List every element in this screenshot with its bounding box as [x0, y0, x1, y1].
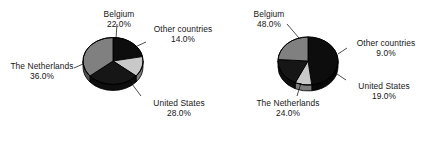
left-label-united-states: United States 28.0% [141, 98, 217, 119]
left-label-other-countries-value: 14.0% [146, 34, 220, 44]
chart-panel-left: Belgium 22.0%Other countries 14.0%United… [0, 0, 218, 142]
right-label-united-states: United States 19.0% [348, 81, 420, 102]
left-label-netherlands: The Netherlands 36.0% [2, 61, 82, 82]
right-label-netherlands-value: 24.0% [245, 108, 331, 118]
right-label-belgium-value: 48.0% [237, 19, 301, 29]
right-label-belgium: Belgium 48.0% [237, 9, 301, 30]
left-label-other-countries: Other countries 14.0% [146, 24, 220, 45]
left-leader-other-countries [135, 42, 146, 47]
right-label-other-countries-category: Other countries [346, 38, 426, 48]
left-label-united-states-value: 28.0% [141, 108, 217, 118]
right-label-netherlands: The Netherlands 24.0% [245, 98, 331, 119]
right-label-other-countries: Other countries 9.0% [346, 38, 426, 59]
right-label-united-states-value: 19.0% [348, 91, 420, 101]
left-label-other-countries-category: Other countries [146, 24, 220, 34]
left-label-netherlands-category: The Netherlands [2, 61, 82, 71]
right-label-other-countries-value: 9.0% [346, 48, 426, 58]
pie-chart-figure: Belgium 22.0%Other countries 14.0%United… [0, 0, 435, 142]
left-label-belgium-value: 22.0% [88, 19, 150, 29]
chart-panel-right: Belgium 48.0%Other countries 9.0%United … [217, 0, 435, 142]
left-label-belgium: Belgium 22.0% [88, 9, 150, 30]
left-label-netherlands-value: 36.0% [2, 71, 82, 81]
right-label-belgium-category: Belgium [237, 9, 301, 19]
left-label-united-states-category: United States [141, 98, 217, 108]
right-label-united-states-category: United States [348, 81, 420, 91]
left-label-belgium-category: Belgium [88, 9, 150, 19]
right-label-netherlands-category: The Netherlands [245, 98, 331, 108]
